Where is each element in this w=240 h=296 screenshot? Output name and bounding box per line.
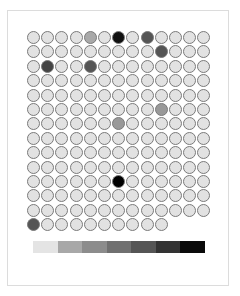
grid-cell[interactable] <box>27 74 40 87</box>
grid-cell[interactable] <box>169 189 182 202</box>
grid-cell[interactable] <box>41 161 54 174</box>
grid-cell[interactable] <box>70 60 83 73</box>
grid-cell[interactable] <box>126 45 139 58</box>
grid-cell[interactable] <box>27 218 40 231</box>
grid-cell[interactable] <box>84 60 97 73</box>
grid-cell[interactable] <box>70 117 83 130</box>
grid-cell[interactable] <box>112 74 125 87</box>
grid-cell[interactable] <box>155 74 168 87</box>
grid-cell[interactable] <box>169 161 182 174</box>
grid-cell[interactable] <box>112 45 125 58</box>
grid-cell[interactable] <box>55 175 68 188</box>
grid-cell[interactable] <box>112 89 125 102</box>
grid-cell[interactable] <box>70 146 83 159</box>
grid-cell[interactable] <box>41 218 54 231</box>
grid-cell[interactable] <box>126 204 139 217</box>
grid-cell[interactable] <box>84 132 97 145</box>
grid-cell[interactable] <box>41 60 54 73</box>
grid-cell[interactable] <box>55 146 68 159</box>
grid-cell[interactable] <box>84 103 97 116</box>
grid-cell[interactable] <box>197 132 210 145</box>
grid-cell[interactable] <box>70 218 83 231</box>
grid-cell[interactable] <box>55 74 68 87</box>
grid-cell[interactable] <box>70 132 83 145</box>
grid-cell[interactable] <box>141 60 154 73</box>
grid-cell[interactable] <box>98 189 111 202</box>
grid-cell[interactable] <box>98 89 111 102</box>
grid-cell[interactable] <box>169 89 182 102</box>
grid-cell[interactable] <box>112 31 125 44</box>
grid-cell[interactable] <box>155 146 168 159</box>
grid-cell[interactable] <box>41 45 54 58</box>
grid-cell[interactable] <box>84 146 97 159</box>
grid-cell[interactable] <box>141 218 154 231</box>
grid-cell[interactable] <box>84 117 97 130</box>
grid-cell[interactable] <box>197 146 210 159</box>
grid-cell[interactable] <box>141 132 154 145</box>
grid-cell[interactable] <box>41 31 54 44</box>
grid-cell[interactable] <box>197 161 210 174</box>
grid-cell[interactable] <box>169 117 182 130</box>
grid-cell[interactable] <box>55 117 68 130</box>
grid-cell[interactable] <box>197 74 210 87</box>
grid-cell[interactable] <box>41 204 54 217</box>
grid-cell[interactable] <box>197 189 210 202</box>
grid-cell[interactable] <box>197 117 210 130</box>
grid-cell[interactable] <box>27 60 40 73</box>
grid-cell[interactable] <box>98 132 111 145</box>
grid-cell[interactable] <box>41 175 54 188</box>
grid-cell[interactable] <box>55 218 68 231</box>
grid-cell[interactable] <box>183 45 196 58</box>
grid-cell[interactable] <box>141 31 154 44</box>
grid-cell[interactable] <box>141 74 154 87</box>
grid-cell[interactable] <box>98 31 111 44</box>
grid-cell[interactable] <box>41 103 54 116</box>
grid-cell[interactable] <box>197 204 210 217</box>
grid-cell[interactable] <box>112 103 125 116</box>
grid-cell[interactable] <box>70 189 83 202</box>
grid-cell[interactable] <box>55 31 68 44</box>
grid-cell[interactable] <box>84 89 97 102</box>
grid-cell[interactable] <box>55 132 68 145</box>
grid-cell[interactable] <box>98 74 111 87</box>
grid-cell[interactable] <box>55 103 68 116</box>
grid-cell[interactable] <box>70 74 83 87</box>
grid-cell[interactable] <box>84 189 97 202</box>
grid-cell[interactable] <box>183 146 196 159</box>
grid-cell[interactable] <box>112 218 125 231</box>
grid-cell[interactable] <box>126 117 139 130</box>
grid-cell[interactable] <box>169 74 182 87</box>
grid-cell[interactable] <box>197 103 210 116</box>
grid-cell[interactable] <box>169 60 182 73</box>
grid-cell[interactable] <box>112 204 125 217</box>
grid-cell[interactable] <box>112 132 125 145</box>
grid-cell[interactable] <box>141 204 154 217</box>
grid-cell[interactable] <box>183 161 196 174</box>
grid-cell[interactable] <box>27 146 40 159</box>
grid-cell[interactable] <box>84 161 97 174</box>
grid-cell[interactable] <box>84 31 97 44</box>
grid-cell[interactable] <box>155 204 168 217</box>
grid-cell[interactable] <box>169 175 182 188</box>
grid-cell[interactable] <box>55 45 68 58</box>
grid-cell[interactable] <box>70 31 83 44</box>
grid-cell[interactable] <box>183 60 196 73</box>
grid-cell[interactable] <box>55 189 68 202</box>
grid-cell[interactable] <box>55 204 68 217</box>
grid-cell[interactable] <box>27 45 40 58</box>
grid-cell[interactable] <box>155 45 168 58</box>
grid-cell[interactable] <box>126 189 139 202</box>
grid-cell[interactable] <box>197 60 210 73</box>
grid-cell[interactable] <box>41 189 54 202</box>
grid-cell[interactable] <box>155 218 168 231</box>
grid-cell[interactable] <box>183 175 196 188</box>
grid-cell[interactable] <box>183 103 196 116</box>
grid-cell[interactable] <box>70 45 83 58</box>
grid-cell[interactable] <box>98 175 111 188</box>
grid-cell[interactable] <box>55 161 68 174</box>
grid-cell[interactable] <box>155 117 168 130</box>
grid-cell[interactable] <box>84 218 97 231</box>
grid-cell[interactable] <box>55 60 68 73</box>
grid-cell[interactable] <box>55 89 68 102</box>
grid-cell[interactable] <box>126 175 139 188</box>
